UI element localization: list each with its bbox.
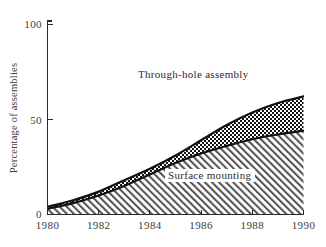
x-tick-label-1984: 1984 (138, 219, 162, 231)
y-tick-label-100: 100 (24, 18, 42, 30)
x-tick-label-1986: 1986 (189, 219, 213, 231)
chart-figure: 100 50 0 1980 1982 1984 1986 1988 1990 P… (0, 0, 326, 247)
annotation-surface-mounting: Surface mounting (168, 169, 252, 181)
plot-area (48, 96, 304, 214)
x-tick-label-1982: 1982 (87, 219, 111, 231)
x-tick-label-1980: 1980 (36, 219, 60, 231)
y-axis-title: Percentage of assemblies (8, 63, 19, 173)
y-tick-labels: 100 50 0 (24, 18, 42, 220)
x-tick-label-1990: 1990 (292, 219, 316, 231)
area-chart: 100 50 0 1980 1982 1984 1986 1988 1990 P… (0, 0, 326, 247)
annotation-through-hole-assembly: Through-hole assembly (138, 68, 249, 80)
x-tick-labels: 1980 1982 1984 1986 1988 1990 (36, 219, 316, 231)
y-tick-label-50: 50 (30, 114, 42, 126)
x-tick-label-1988: 1988 (240, 219, 264, 231)
